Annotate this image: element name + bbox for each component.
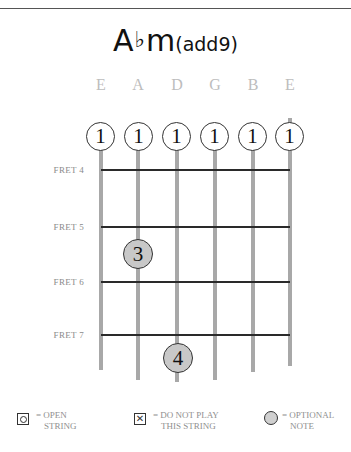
finger-marker-a: 1 bbox=[124, 122, 153, 151]
fret-label-6: FRET 6 bbox=[0, 277, 84, 287]
legend-muted-line2: THIS STRING bbox=[153, 421, 219, 432]
legend-open-line1: = OPEN bbox=[36, 410, 77, 421]
chord-title: A♭m(add9) bbox=[0, 26, 351, 56]
legend-optional-note: = OPTIONAL NOTE bbox=[282, 410, 334, 432]
flat-symbol: ♭ bbox=[135, 27, 145, 52]
finger-marker-g: 1 bbox=[200, 122, 229, 151]
chord-extension: (add9) bbox=[175, 33, 238, 55]
optional-note-icon bbox=[264, 411, 278, 425]
fret-line-6 bbox=[101, 281, 290, 283]
finger-marker-low-e: 1 bbox=[86, 122, 115, 151]
legend-open-line2: STRING bbox=[36, 421, 77, 432]
string-name-b: B bbox=[241, 76, 265, 94]
string-line-high-e bbox=[288, 118, 292, 366]
muted-string-icon: ✕ bbox=[134, 413, 146, 425]
string-name-d: D bbox=[165, 76, 189, 94]
legend-muted-line1: = DO NOT PLAY bbox=[153, 410, 219, 421]
legend-open-string: = OPEN STRING bbox=[36, 410, 77, 432]
fret-label-5: FRET 5 bbox=[0, 222, 84, 232]
string-name-low-e: E bbox=[89, 76, 113, 94]
top-divider bbox=[0, 8, 351, 9]
string-name-a: A bbox=[126, 76, 150, 94]
legend-optional-line1: = OPTIONAL bbox=[282, 410, 334, 421]
finger-marker-b: 1 bbox=[238, 122, 267, 151]
fret-label-4: FRET 4 bbox=[0, 165, 84, 175]
fret-label-7: FRET 7 bbox=[0, 330, 84, 340]
chord-root: A bbox=[113, 23, 134, 58]
chord-quality: m bbox=[146, 23, 175, 58]
legend-optional-line2: NOTE bbox=[282, 421, 334, 432]
fret-line-4 bbox=[101, 169, 290, 171]
string-line-g bbox=[213, 124, 217, 380]
fret-line-7 bbox=[101, 334, 290, 336]
finger-marker-high-e: 1 bbox=[275, 122, 304, 151]
fret-line-5 bbox=[101, 226, 290, 228]
open-string-icon bbox=[17, 413, 29, 425]
legend-muted-string: = DO NOT PLAY THIS STRING bbox=[153, 410, 219, 432]
string-name-g: G bbox=[203, 76, 227, 94]
fretted-note-a-fret5: 3 bbox=[123, 239, 153, 269]
finger-marker-d: 1 bbox=[162, 122, 191, 151]
fretted-note-d-fret7: 4 bbox=[163, 343, 193, 373]
string-name-high-e: E bbox=[278, 76, 302, 94]
